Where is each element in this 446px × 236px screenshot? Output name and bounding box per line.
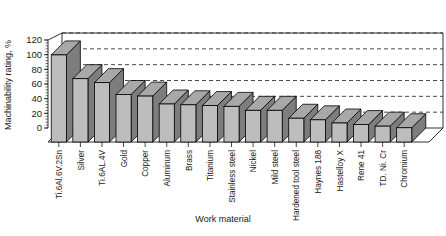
x-axis-category-label: Brass bbox=[185, 150, 194, 171]
y-axis-title: Machinability rating, % bbox=[3, 40, 13, 130]
x-axis-category-label: Chromium bbox=[400, 150, 409, 188]
machinability-bar-chart: 020406080100120 Ti.6Al.6V.2SnSilverTi.6A… bbox=[0, 0, 446, 236]
x-axis-category-label: Ti.6AL.4V bbox=[98, 149, 107, 185]
y-axis-tick-label: 80 bbox=[31, 64, 42, 75]
x-axis-category-label: Rene 41 bbox=[357, 150, 366, 181]
x-axis-category-label: Titanium bbox=[206, 150, 215, 181]
x-axis-category-label: Haynes 188 bbox=[314, 150, 323, 194]
x-axis-category-label: Hastelloy X bbox=[336, 149, 345, 191]
y-axis-tick-label: 0 bbox=[37, 122, 42, 133]
y-axis-tick-label: 60 bbox=[31, 78, 42, 89]
chart-canvas: 020406080100120 Ti.6Al.6V.2SnSilverTi.6A… bbox=[0, 0, 446, 236]
x-axis-labels: Ti.6Al.6V.2SnSilverTi.6AL.4VGoldCopperAl… bbox=[55, 149, 409, 221]
x-axis-category-label: Mild steel bbox=[271, 150, 280, 185]
x-axis-category-label: Nickel bbox=[249, 150, 258, 172]
x-axis-category-label: Gold bbox=[120, 150, 129, 168]
x-axis-category-label: Ti.6Al.6V.2Sn bbox=[55, 150, 64, 199]
y-axis-tick-label: 100 bbox=[26, 49, 42, 60]
x-axis-category-label: Copper bbox=[141, 150, 150, 177]
y-axis: 020406080100120 bbox=[26, 34, 48, 133]
x-axis-ticks bbox=[59, 142, 404, 147]
y-axis-tick-label: 120 bbox=[26, 34, 42, 45]
x-axis-category-label: Aluminum bbox=[163, 150, 172, 187]
x-axis-category-label: Stainless steel bbox=[228, 150, 237, 203]
x-axis-category-label: Hardened tool steel bbox=[292, 150, 301, 221]
x-axis-category-label: TD. Ni. Cr bbox=[379, 150, 388, 187]
x-axis-category-label: Silver bbox=[77, 150, 86, 171]
x-axis-title: Work material bbox=[195, 214, 250, 224]
y-axis-tick-label: 20 bbox=[31, 108, 42, 119]
y-axis-tick-label: 40 bbox=[31, 93, 42, 104]
